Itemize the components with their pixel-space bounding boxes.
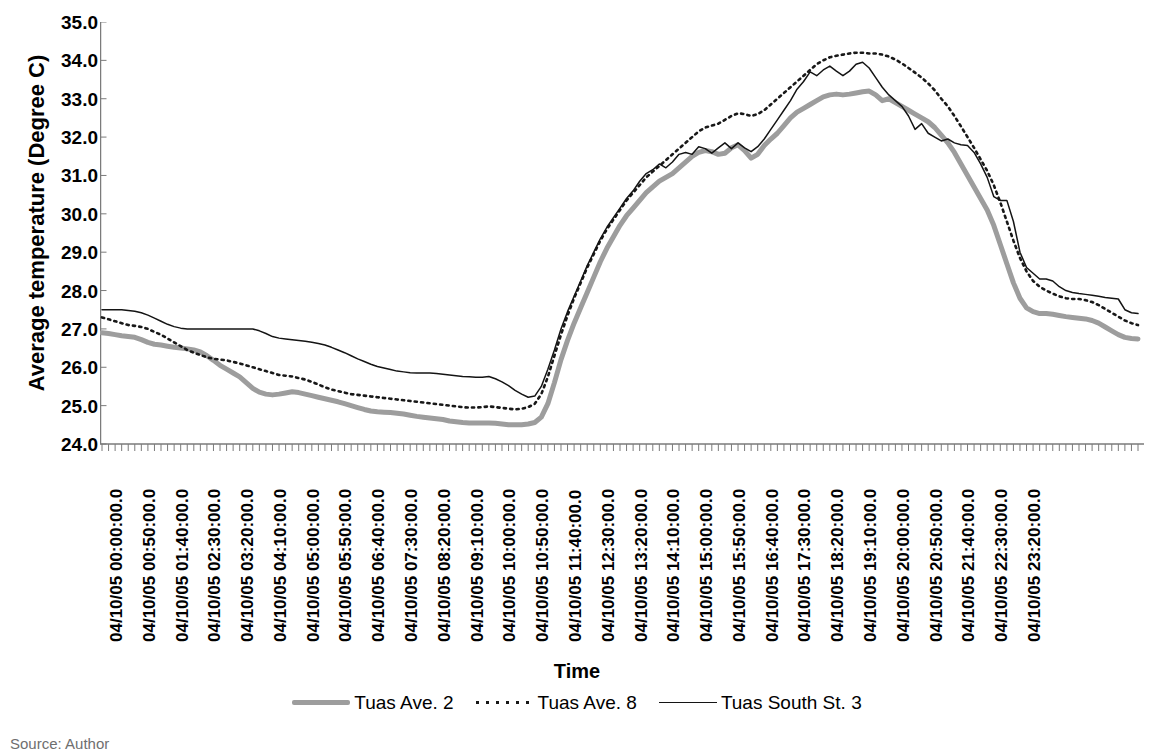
legend-item[interactable]: Tuas Ave. 2 [292,693,453,712]
legend-swatch-icon [659,702,717,703]
x-tick-label: 04/10/05 11:40:00.0 [567,490,584,642]
y-axis-tick-labels: 35.034.033.032.031.030.029.028.027.026.0… [10,0,98,470]
x-tick-label: 04/10/05 23:20:00.0 [1026,489,1043,642]
x-tick-label: 04/10/05 05:50:00.0 [337,489,354,642]
x-tick-label: 04/10/05 01:40:00.0 [174,489,191,642]
x-tick-label: 04/10/05 10:50:00.0 [534,489,551,642]
legend-item[interactable]: Tuas South St. 3 [659,693,862,712]
y-tick-label: 35.0 [12,13,98,32]
y-tick-label: 33.0 [12,90,98,109]
y-tick-label: 34.0 [12,51,98,70]
x-axis-tick-labels: 04/10/05 00:00:00.004/10/05 00:50:00.004… [0,444,1154,659]
x-tick-label: 04/10/05 16:40:00.0 [764,489,781,642]
x-tick-label: 04/10/05 02:30:00.0 [206,489,223,642]
y-tick-label: 28.0 [12,282,98,301]
x-tick-label: 04/10/05 19:10:00.0 [862,489,879,642]
y-tick-label: 26.0 [12,358,98,377]
plot-area [100,22,1144,444]
y-tick-label: 25.0 [12,397,98,416]
x-tick-label: 04/10/05 07:30:00.0 [403,489,420,642]
chart-legend: Tuas Ave. 2Tuas Ave. 8Tuas South St. 3 [0,688,1154,716]
series-line-tuas-ave-8 [102,53,1138,410]
axis-lines [101,22,1144,444]
x-tick-label: 04/10/05 14:10:00.0 [665,489,682,642]
x-tick-label: 04/10/05 15:00:00.0 [698,489,715,642]
x-tick-label: 04/10/05 12:30:00.0 [600,489,617,642]
x-tick-label: 04/10/05 05:00:00.0 [305,489,322,642]
x-tick-label: 04/10/05 10:00:00.0 [501,489,518,642]
x-tick-label: 04/10/05 15:50:00.0 [731,489,748,642]
x-tick-label: 04/10/05 18:20:00.0 [829,489,846,642]
x-tick-label: 04/10/05 17:30:00.0 [796,489,813,642]
temperature-line-chart: Average temperature (Degree C) 35.034.03… [0,0,1154,751]
legend-label: Tuas Ave. 8 [538,693,637,712]
x-tick-label: 04/10/05 08:20:00.0 [436,489,453,642]
y-tick-label: 29.0 [12,243,98,262]
x-tick-label: 04/10/05 13:20:00.0 [633,489,650,642]
x-tick-label: 04/10/05 22:30:00.0 [993,489,1010,642]
series-line-tuas-ave-2 [102,91,1138,425]
legend-item[interactable]: Tuas Ave. 8 [476,693,637,712]
x-tick-label: 04/10/05 00:50:00.0 [141,489,158,642]
x-tick-label: 04/10/05 04:10:00.0 [272,489,289,642]
plot-svg [100,22,1144,458]
legend-swatch-icon [292,700,350,705]
x-axis-title: Time [0,660,1154,683]
y-tick-label: 27.0 [12,320,98,339]
y-tick-label: 31.0 [12,166,98,185]
legend-label: Tuas Ave. 2 [354,693,453,712]
source-caption: Source: Author [10,736,109,751]
x-tick-label: 04/10/05 09:10:00.0 [469,489,486,642]
y-tick-label: 32.0 [12,128,98,147]
x-tick-label: 04/10/05 00:00:00.0 [108,489,125,642]
y-tick-marks [101,22,107,444]
legend-swatch-icon [476,701,534,704]
x-tick-label: 04/10/05 21:40:00.0 [960,489,977,642]
x-tick-label: 04/10/05 06:40:00.0 [370,489,387,642]
legend-label: Tuas South St. 3 [721,693,862,712]
y-tick-label: 30.0 [12,205,98,224]
x-tick-label: 04/10/05 20:50:00.0 [928,489,945,642]
x-tick-label: 04/10/05 03:20:00.0 [239,489,256,642]
x-tick-label: 04/10/05 20:00:00.0 [895,489,912,642]
